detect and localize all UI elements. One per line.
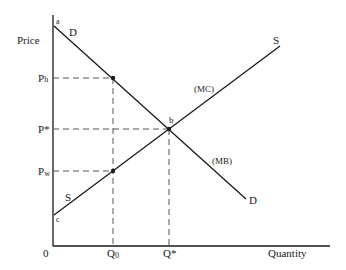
point-w — [111, 169, 115, 173]
y-axis-label: Price — [17, 34, 40, 46]
supply-top-label: S — [273, 34, 279, 46]
supply-demand-diagram: Price Quantity 0 Ph P* Pw Q0 Q* a D D (M… — [0, 0, 346, 270]
origin-label: 0 — [43, 247, 49, 259]
point-b-label: b — [169, 115, 174, 125]
point-b — [167, 127, 171, 131]
q0-label: Q0 — [107, 247, 119, 260]
pstar-label: P* — [38, 123, 50, 135]
supply-curve — [54, 46, 280, 215]
point-h — [111, 76, 115, 80]
point-a-label: a — [56, 17, 60, 26]
point-c-label: c — [56, 215, 60, 224]
mb-annotation: (MB) — [212, 156, 232, 166]
qstar-label: Q* — [163, 247, 176, 259]
ph-label: Ph — [38, 72, 48, 84]
demand-bottom-label: D — [249, 194, 257, 206]
supply-bottom-label: S — [65, 191, 71, 203]
pw-label: Pw — [38, 165, 50, 178]
mc-annotation: (MC) — [194, 84, 214, 94]
demand-top-label: D — [69, 26, 77, 38]
x-axis-label: Quantity — [268, 247, 307, 259]
demand-curve — [54, 26, 246, 199]
